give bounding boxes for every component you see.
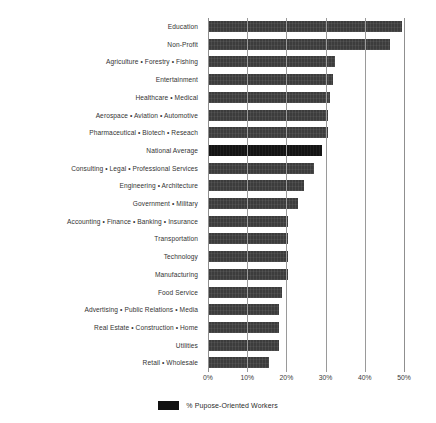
gridline-10: [247, 18, 248, 372]
gridline-20: [286, 18, 287, 372]
bar-entertainment: [208, 74, 333, 85]
bar-row: [208, 301, 404, 319]
bar-row: [208, 18, 404, 36]
category-label: Consulting • Legal • Professional Servic…: [0, 160, 198, 178]
plot-area: [208, 18, 404, 372]
bar-row: [208, 142, 404, 160]
legend-label: % Pupose-Oriented Workers: [186, 402, 277, 409]
bar-row: [208, 124, 404, 142]
x-tick-label: 10%: [240, 374, 254, 381]
bar-row: [208, 177, 404, 195]
category-label: Retail • Wholesale: [0, 354, 198, 372]
bar-national-average: [208, 145, 322, 156]
category-label: Government • Military: [0, 195, 198, 213]
x-tick-label: 30%: [319, 374, 333, 381]
legend-swatch-icon: [158, 401, 179, 410]
bar-row: [208, 53, 404, 71]
x-tick-label: 50%: [397, 374, 411, 381]
x-tick-label: 0%: [203, 374, 213, 381]
x-tick-label: 40%: [358, 374, 372, 381]
bar-pharmaceutical-biotech-reseach: [208, 127, 328, 138]
category-label: Food Service: [0, 284, 198, 302]
category-label: Advertising • Public Relations • Media: [0, 301, 198, 319]
x-axis-tick-labels: 0%10%20%30%40%50%: [0, 374, 436, 388]
bar-row: [208, 195, 404, 213]
gridline-40: [365, 18, 366, 372]
bar-rows: [208, 18, 404, 372]
category-label: Education: [0, 18, 198, 36]
bar-row: [208, 284, 404, 302]
bar-food-service: [208, 287, 282, 298]
category-label: Pharmaceutical • Biotech • Reseach: [0, 124, 198, 142]
bar-row: [208, 36, 404, 54]
bar-real-estate-construction-home: [208, 322, 279, 333]
bar-row: [208, 230, 404, 248]
gridline-50: [404, 18, 405, 372]
bar-government-military: [208, 198, 298, 209]
bar-consulting-legal-professional-services: [208, 163, 314, 174]
bar-row: [208, 319, 404, 337]
gridline-30: [326, 18, 327, 372]
gridline-0: [208, 18, 209, 372]
bar-non-profit: [208, 39, 390, 50]
bar-engineering-architecture: [208, 180, 304, 191]
bar-row: [208, 107, 404, 125]
bar-row: [208, 89, 404, 107]
bar-utilities: [208, 340, 279, 351]
bar-advertising-public-relations-media: [208, 304, 279, 315]
category-label: Entertainment: [0, 71, 198, 89]
category-label: Manufacturing: [0, 266, 198, 284]
category-label: Engineering • Architecture: [0, 177, 198, 195]
bar-healthcare-medical: [208, 92, 330, 103]
category-label: Agriculture • Forestry • Fishing: [0, 53, 198, 71]
bar-retail-wholesale: [208, 357, 269, 368]
bar-row: [208, 160, 404, 178]
x-tick-label: 20%: [280, 374, 294, 381]
category-label: National Average: [0, 142, 198, 160]
category-label: Accounting • Finance • Banking • Insuran…: [0, 213, 198, 231]
category-label: Non-Profit: [0, 36, 198, 54]
bar-row: [208, 71, 404, 89]
bar-row: [208, 248, 404, 266]
category-label: Real Estate • Construction • Home: [0, 319, 198, 337]
chart-legend: % Pupose-Oriented Workers: [0, 396, 436, 414]
bar-row: [208, 337, 404, 355]
category-label: Aerospace • Aviation • Automotive: [0, 107, 198, 125]
bar-agriculture-forestry-fishing: [208, 56, 335, 67]
bar-aerospace-aviation-automotive: [208, 110, 328, 121]
category-label: Technology: [0, 248, 198, 266]
category-label: Utilities: [0, 337, 198, 355]
bar-education: [208, 21, 402, 32]
bar-row: [208, 266, 404, 284]
category-label: Healthcare • Medical: [0, 89, 198, 107]
bar-row: [208, 213, 404, 231]
category-label: Transportation: [0, 230, 198, 248]
category-axis-labels: EducationNon-ProfitAgriculture • Forestr…: [0, 18, 203, 372]
purpose-oriented-workers-bar-chart: EducationNon-ProfitAgriculture • Forestr…: [0, 0, 436, 423]
bar-row: [208, 354, 404, 372]
